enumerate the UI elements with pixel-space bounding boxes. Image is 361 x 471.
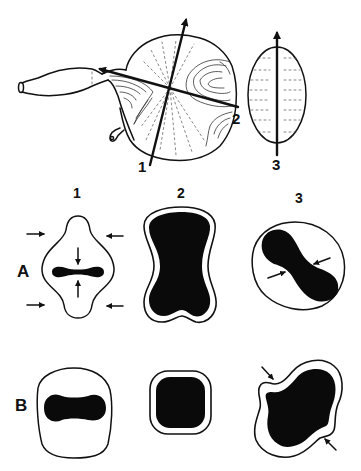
column-label-1: 1 [73, 185, 81, 201]
panel-a1 [27, 216, 123, 318]
diagram-canvas: 1 2 3 1 2 3 A B [0, 0, 361, 471]
column-label-3: 3 [295, 190, 303, 206]
duct [19, 68, 135, 141]
axis-label-2: 2 [232, 110, 240, 127]
panel-b3 [255, 360, 342, 457]
panel-a3 [252, 222, 344, 310]
organ-illustration: 1 2 [19, 20, 241, 175]
side-section: 3 [248, 33, 306, 173]
column-label-2: 2 [177, 185, 185, 201]
panel-a2 [144, 207, 216, 322]
axis-label-3: 3 [272, 156, 280, 173]
row-label-b: B [15, 396, 27, 415]
axis-1-arrow [150, 20, 186, 165]
panel-b2 [150, 371, 211, 434]
panel-b1 [37, 368, 112, 458]
row-label-a: A [17, 262, 29, 281]
axis-label-1: 1 [138, 158, 146, 175]
